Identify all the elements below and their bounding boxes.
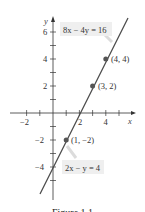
figure-caption: Figure 1.1 [52, 207, 93, 212]
point-label: (3, 2) [98, 81, 117, 91]
point-label: (4, 4) [111, 54, 130, 64]
y-tick-label: −4 [35, 162, 45, 172]
x-axis: −2 2 4 x [10, 110, 136, 127]
y-tick-label: 4 [43, 54, 48, 64]
x-tick-label: 2 [78, 117, 82, 127]
y-tick-label: 6 [43, 27, 47, 37]
graph: −2 2 4 x 6 4 2 −2 −4 y (4, 4) (3, 2) (1,… [0, 0, 145, 212]
point-1-neg2 [64, 138, 69, 143]
point-4-4 [103, 57, 108, 62]
upper-equation-label: 8x − 4y = 16 [63, 25, 107, 35]
y-tick-label: −2 [35, 135, 44, 145]
y-tick-label: 2 [43, 81, 47, 91]
point-label: (1, −2) [71, 135, 94, 145]
x-axis-label: x [127, 116, 132, 126]
lower-equation-label: 2x − y = 4 [65, 163, 101, 173]
point-3-2 [90, 84, 95, 89]
x-tick-label: 4 [104, 117, 109, 127]
y-axis-label: y [43, 16, 48, 26]
x-tick-label: −2 [20, 117, 29, 127]
lower-label-leader [67, 146, 76, 158]
y-axis: 6 4 2 −2 −4 y [35, 16, 56, 200]
